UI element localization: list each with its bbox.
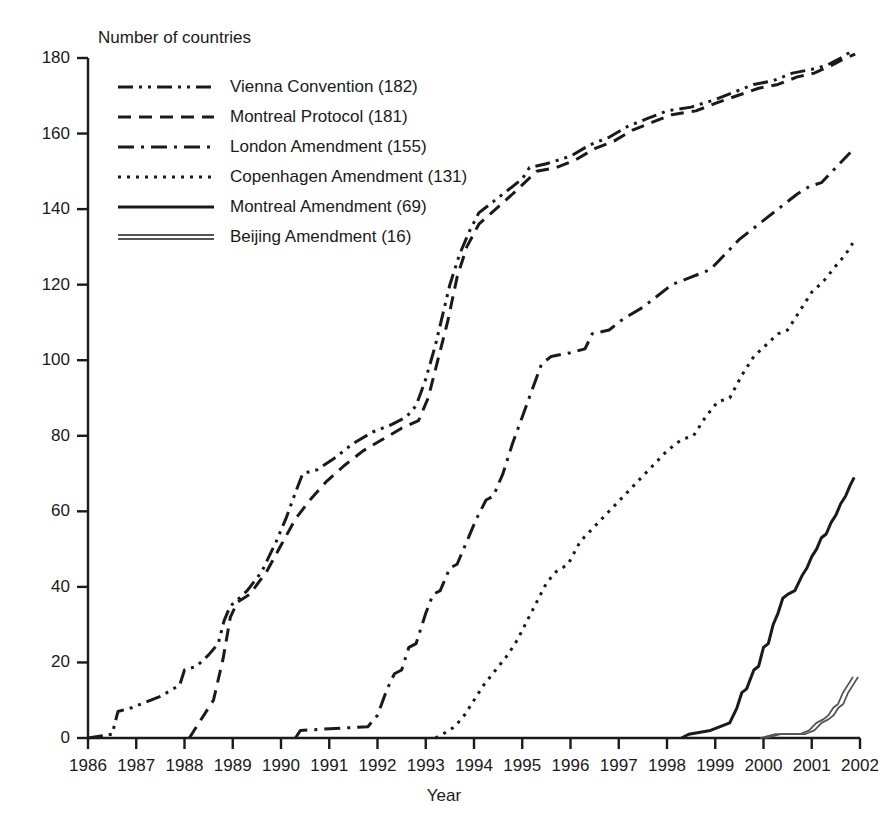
plot-area <box>0 0 888 832</box>
series-line-4 <box>681 477 854 738</box>
series-line-5 <box>766 678 858 738</box>
series-line-1 <box>189 54 855 738</box>
series-line-3 <box>435 243 852 738</box>
chart-container: Number of countries Year 020406080100120… <box>0 0 888 832</box>
data-series <box>88 50 858 738</box>
axes <box>77 58 860 749</box>
series-line-2 <box>295 152 850 738</box>
series-line-0 <box>88 50 853 738</box>
